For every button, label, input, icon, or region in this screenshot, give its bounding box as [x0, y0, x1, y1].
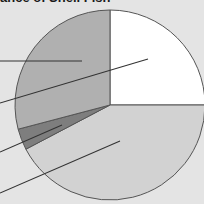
pie-slices: [15, 10, 204, 200]
pie-slice-0: [110, 10, 204, 105]
pie-chart: [0, 0, 204, 204]
